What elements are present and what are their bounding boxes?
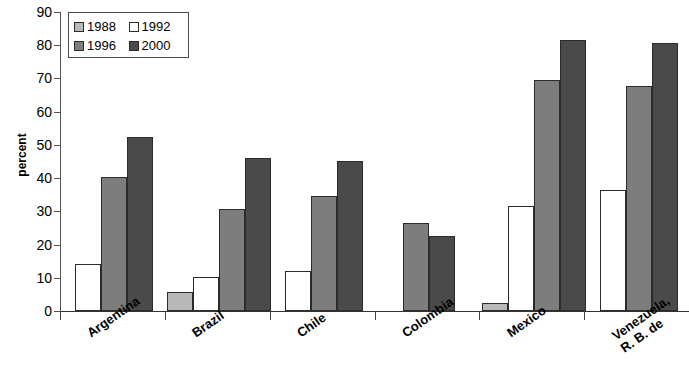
bar-group (375, 12, 480, 311)
legend-row: 1988 1992 (74, 17, 183, 36)
legend-label-1992: 1992 (142, 20, 171, 33)
legend-label-1988: 1988 (87, 20, 116, 33)
legend-item-1996: 1996 (74, 39, 129, 52)
x-axis-tick-mark (479, 311, 480, 320)
y-axis-tick-label: 0 (26, 304, 52, 318)
legend-swatch-1996-icon (74, 41, 84, 51)
bar-group (584, 12, 689, 311)
y-axis-tick-label: 70 (26, 71, 52, 85)
x-axis-tick-mark (60, 311, 61, 320)
legend-item-2000: 2000 (129, 39, 184, 52)
y-axis-tick-label: 20 (26, 238, 52, 252)
bar-mexico-2000 (560, 40, 586, 311)
x-axis-label-brazil: Brazil (189, 308, 227, 341)
bar-group (270, 12, 375, 311)
bar-brazil-1992 (193, 277, 219, 311)
bar-chile-1992 (285, 271, 311, 311)
y-axis-tick-label: 10 (26, 271, 52, 285)
legend-item-1992: 1992 (129, 20, 184, 33)
x-axis-label-line: Brazil (189, 308, 227, 341)
bar-mexico-1988 (482, 303, 508, 311)
x-axis-tick-mark (584, 311, 585, 320)
legend-row: 1996 2000 (74, 36, 183, 55)
bar-mexico-1992 (508, 206, 534, 311)
y-axis-tick-label: 80 (26, 38, 52, 52)
bar-chile-1996 (311, 196, 337, 311)
legend-item-1988: 1988 (74, 20, 129, 33)
bar-colombia-1996 (403, 223, 429, 311)
bar-mexico-1996 (534, 80, 560, 311)
legend: 1988 1992 1996 2000 (68, 12, 189, 58)
x-axis-label-line: Chile (294, 310, 329, 341)
y-axis-tick-label: 40 (26, 171, 52, 185)
legend-swatch-1992-icon (129, 22, 139, 32)
legend-swatch-1988-icon (74, 22, 84, 32)
bar-chart: percent 9080706050403020100 ArgentinaBra… (0, 0, 689, 385)
legend-swatch-2000-icon (129, 41, 139, 51)
bar-argentina-1996 (101, 177, 127, 311)
bar-argentina-1992 (75, 264, 101, 312)
bar-venezuela-r-b-de-1992 (600, 190, 626, 311)
bar-brazil-1996 (219, 209, 245, 311)
bar-brazil-1988 (167, 292, 193, 311)
y-axis-tick-label: 90 (26, 5, 52, 19)
legend-label-2000: 2000 (142, 39, 171, 52)
y-axis-tick-label: 30 (26, 204, 52, 218)
y-axis-tick-label: 50 (26, 138, 52, 152)
x-axis-label-chile: Chile (294, 310, 329, 341)
x-axis-tick-mark (375, 311, 376, 320)
bar-brazil-2000 (245, 158, 271, 311)
x-axis-tick-mark (270, 311, 271, 320)
bar-group (479, 12, 584, 311)
legend-label-1996: 1996 (87, 39, 116, 52)
bar-venezuela-r-b-de-1996 (626, 86, 652, 311)
bar-argentina-2000 (127, 137, 153, 311)
bar-venezuela-r-b-de-2000 (652, 43, 678, 311)
y-axis-tick-label: 60 (26, 105, 52, 119)
x-axis-tick-mark (165, 311, 166, 320)
y-axis-tick-labels: 9080706050403020100 (24, 0, 52, 385)
bar-chile-2000 (337, 161, 363, 311)
